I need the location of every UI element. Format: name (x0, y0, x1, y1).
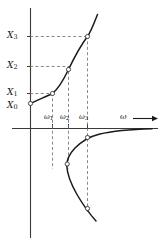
vertical-guide-lines (53, 36, 88, 214)
y-label-x3: X3 (7, 31, 18, 41)
y-label-x0: X0 (7, 101, 18, 111)
marker-lower-w3-lower (85, 206, 89, 210)
y-label-x2: X2 (7, 61, 18, 71)
y-label-x1: X1 (7, 88, 18, 98)
marker-x0-w0 (28, 101, 32, 105)
marker-x1-w1 (50, 91, 54, 95)
markers-upper-branch (28, 34, 89, 105)
omega-axis-arrow-icon (133, 116, 158, 121)
x-label-w1: ω1 (44, 114, 53, 122)
marker-x3-w3 (85, 34, 89, 38)
x-tick-marks (53, 124, 88, 129)
x-label-w3: ω3 (79, 114, 88, 122)
marker-lower-w2 (65, 162, 69, 166)
x-axis-title: ω (120, 113, 127, 121)
marker-x2-w2 (66, 67, 70, 71)
plot-canvas (0, 0, 165, 244)
curve-lower-branch (67, 129, 152, 221)
x-label-w2: ω2 (60, 114, 69, 122)
figure-root: X3 X2 X1 X0 ω1 ω2 ω3 ω (0, 0, 165, 244)
marker-lower-w3-upper (85, 135, 89, 139)
